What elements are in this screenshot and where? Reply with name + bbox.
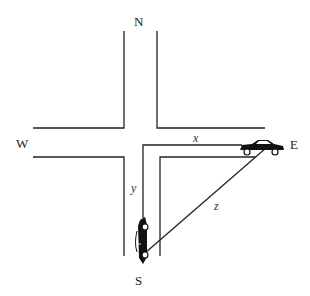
intersection-diagram: N W E S x y z — [0, 0, 310, 296]
label-z: z — [213, 199, 219, 213]
line-z — [145, 148, 266, 253]
label-x: x — [192, 131, 199, 145]
car-east-icon — [240, 140, 284, 155]
label-y: y — [130, 181, 137, 195]
road-edge-northwest — [33, 31, 124, 128]
label-east: E — [290, 137, 298, 152]
road-edge-southeast — [160, 157, 255, 256]
label-north: N — [134, 14, 144, 29]
road-edge-southwest — [33, 157, 124, 256]
label-west: W — [16, 136, 29, 151]
diagram-svg: N W E S x y z — [0, 0, 310, 296]
car-south-icon — [136, 217, 149, 264]
label-south: S — [135, 273, 142, 288]
road-edge-northeast — [157, 31, 265, 128]
